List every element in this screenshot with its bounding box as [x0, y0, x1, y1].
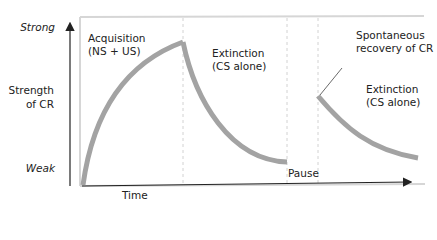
- y-axis-title-line1: Strength: [0, 84, 54, 96]
- recovery-label-line2: recovery of CR: [356, 42, 433, 54]
- pause-label: Pause: [288, 167, 319, 179]
- acquisition-label-line1: Acquisition: [88, 32, 146, 44]
- recovery-label-line1: Spontaneous: [356, 29, 425, 41]
- acquisition-label-line2: (NS + US): [88, 45, 141, 57]
- extinction1-label-line2: (CS alone): [212, 60, 266, 72]
- recovery-pointer-line: [320, 68, 342, 95]
- extinction2-label-line2: (CS alone): [366, 96, 420, 108]
- y-axis-title-line2: of CR: [0, 98, 54, 110]
- y-axis-weak-label: Weak: [5, 162, 55, 174]
- x-axis-title: Time: [122, 189, 148, 201]
- extinction2-label-line1: Extinction: [366, 83, 418, 95]
- extinction1-label-line1: Extinction: [212, 47, 264, 59]
- acquisition-curve: [83, 42, 183, 185]
- y-axis-strong-label: Strong: [5, 21, 55, 33]
